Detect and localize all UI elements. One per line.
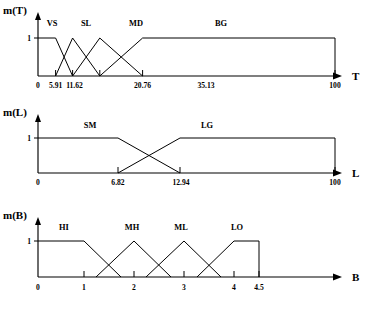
set-label-vs: VS [47,19,58,28]
x-tick-label-mt-5: 100 [329,81,341,90]
mf-lo [197,241,259,277]
set-label-bg: BG [215,19,228,28]
x-tick-label-mt-3: 20.76 [134,81,151,90]
x-tick-label-ml-2: 12.94 [172,178,189,187]
chart-ml-svg: m(L) L 1 0 6.82 12.94 100 SM LG [0,97,374,197]
x-axis-label-mt: T [352,70,360,82]
y-axis-mb [35,217,41,277]
y-axis-mt [35,12,41,76]
set-label-mh: MH [125,223,140,232]
chart-mb-block: m(B) B 1 0 1 2 3 4 4.5 HI MH ML LO [0,199,374,311]
chart-ml-block: m(L) L 1 0 6.82 12.94 100 SM LG [0,97,374,197]
mf-sl [56,38,100,76]
set-label-hi: HI [59,223,69,232]
x-ticks-mb [84,271,259,277]
x-tick-label-mb-0: 0 [36,283,40,292]
set-label-sm: SM [84,121,97,130]
x-tick-label-mb-5: 4.5 [254,283,264,292]
mf-bg [100,38,335,76]
set-label-sl: SL [81,19,92,28]
x-tick-label-mb-2: 2 [132,283,136,292]
mf-hi [38,241,121,277]
y-tick-label-1-mb: 1 [27,237,31,246]
x-tick-label-mb-1: 1 [82,283,86,292]
set-label-lg: LG [201,121,214,130]
chart-mb-svg: m(B) B 1 0 1 2 3 4 4.5 HI MH ML LO [0,199,374,311]
x-tick-label-ml-1: 6.82 [111,178,124,187]
mf-sm [38,138,180,173]
x-axis-ml [38,170,342,177]
x-tick-label-ml-3: 100 [329,178,341,187]
x-tick-label-mb-3: 3 [182,283,186,292]
x-tick-label-mt-0: 0 [36,81,40,90]
y-tick-label-1-ml: 1 [27,134,31,143]
set-label-ml2: ML [174,223,188,232]
y-axis-label-mb: m(B) [3,209,27,222]
x-axis-mt [38,73,342,80]
y-axis-label-ml: m(L) [3,106,27,119]
x-tick-label-mt-4: 35.13 [197,81,214,90]
x-tick-label-mt-1: 5.91 [49,81,62,90]
x-axis-label-mb: B [352,271,360,283]
chart-mt-block: m(T) T 1 0 5.91 11.62 20.76 35.13 100 VS… [0,0,374,95]
y-tick-label-1-mt: 1 [27,34,31,43]
x-tick-label-ml-0: 0 [36,178,40,187]
chart-mt-svg: m(T) T 1 0 5.91 11.62 20.76 35.13 100 VS… [0,0,374,95]
x-axis-label-ml: L [352,167,359,179]
y-axis-ml [35,114,41,173]
set-label-md: MD [129,19,143,28]
set-label-lo: LO [231,223,244,232]
x-ticks-ml [118,167,335,173]
x-tick-label-mt-2: 11.62 [66,81,83,90]
y-axis-label-mt: m(T) [3,4,27,17]
mf-md [73,38,143,76]
x-tick-label-mb-4: 4 [232,283,236,292]
mf-lg [118,138,335,173]
